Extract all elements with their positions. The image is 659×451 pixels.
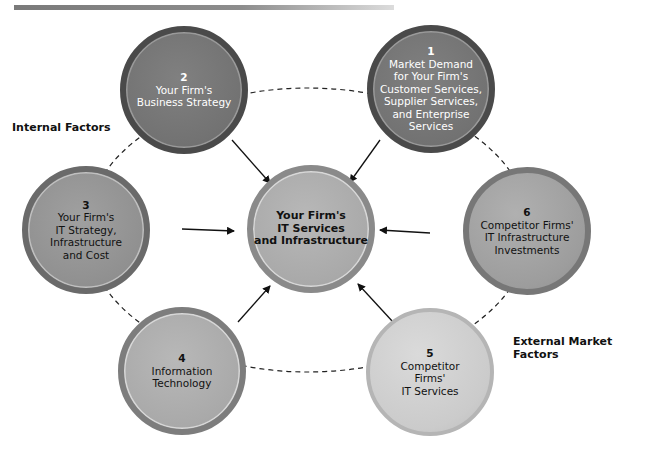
node-line: Competitor Firms' <box>480 219 573 232</box>
center-line: Your Firm's <box>276 210 346 223</box>
external-factors-label: External Market Factors <box>513 335 659 361</box>
node-line: IT Strategy, <box>55 224 116 237</box>
node-line: Services <box>409 120 453 133</box>
arrow-1-to-center <box>350 140 380 182</box>
node-line: Your Firm's <box>156 84 213 97</box>
node-number: 5 <box>426 347 433 360</box>
node-line: Information <box>152 365 213 378</box>
node-line: Customer Services, <box>380 83 482 96</box>
node-line: for Your Firm's <box>394 70 468 83</box>
center-node-it-services: Your Firm's IT Services and Infrastructu… <box>247 165 375 293</box>
node-2-business-strategy: 2 Your Firm's Business Strategy <box>120 26 248 154</box>
node-line: Supplier Services, <box>384 95 478 108</box>
center-line: and Infrastructure <box>254 235 368 248</box>
node-line: Technology <box>153 377 212 390</box>
node-line: and Cost <box>63 249 109 262</box>
node-line: IT Infrastructure <box>485 231 570 244</box>
internal-factors-label: Internal Factors <box>12 121 111 134</box>
arrow-2-to-center <box>232 140 270 183</box>
node-5-competitor-it-services: 5 Competitor Firms' IT Services <box>366 308 494 436</box>
node-number: 3 <box>82 199 89 212</box>
node-4-information-technology: 4 Information Technology <box>118 307 246 435</box>
node-number: 4 <box>178 352 185 365</box>
node-line: Your Firm's <box>58 211 115 224</box>
node-line: Business Strategy <box>137 96 232 109</box>
node-line: and Enterprise <box>392 108 469 121</box>
arrow-5-to-center <box>358 284 393 322</box>
node-3-it-strategy: 3 Your Firm's IT Strategy, Infrastructur… <box>22 166 150 294</box>
node-line: Infrastructure <box>50 236 122 249</box>
node-line: Investments <box>495 244 560 257</box>
arrow-6-to-center <box>380 230 430 233</box>
node-line: IT Services <box>401 385 458 398</box>
node-number: 6 <box>523 206 530 219</box>
node-1-market-demand: 1 Market Demand for Your Firm's Customer… <box>367 25 495 153</box>
node-number: 1 <box>427 45 434 58</box>
node-number: 2 <box>180 71 187 84</box>
node-line: Market Demand <box>389 58 473 71</box>
node-line: Firms' <box>415 372 446 385</box>
node-line: Competitor <box>400 360 459 373</box>
arrow-3-to-center <box>182 229 234 231</box>
arrow-4-to-center <box>238 286 270 322</box>
node-6-competitor-investments: 6 Competitor Firms' IT Infrastructure In… <box>463 167 591 295</box>
